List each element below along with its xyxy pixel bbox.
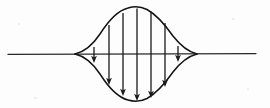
paper-noise bbox=[18, 18, 249, 99]
arrow-4 bbox=[134, 9, 140, 102]
arrow-6 bbox=[162, 23, 168, 87]
arrow-1 bbox=[91, 47, 97, 63]
horizontal-axis-line bbox=[8, 54, 256, 55]
upper-curve bbox=[75, 7, 197, 54]
arrow-5 bbox=[148, 12, 154, 99]
figure-container: Downward force field across a lens-shape… bbox=[0, 0, 270, 108]
force-field-diagram bbox=[0, 0, 270, 108]
arrow-2 bbox=[106, 25, 112, 85]
